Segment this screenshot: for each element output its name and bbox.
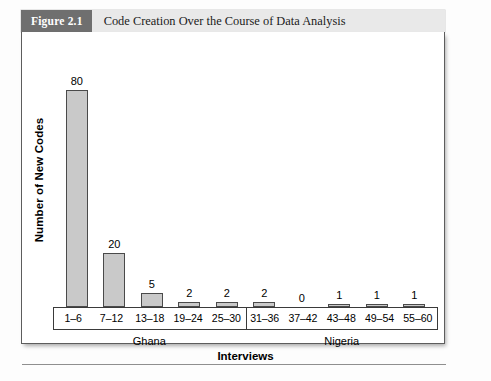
y-axis-label-text: Number of New Codes: [33, 118, 45, 243]
x-axis-category-label: 31–36: [245, 307, 283, 329]
bar-slot: 1: [358, 54, 396, 307]
x-axis-title: Interviews: [53, 350, 438, 362]
bar-value-label: 2: [171, 288, 209, 299]
category-label-box: 1–67–1213–1819–2425–3031–3637–4243–4849–…: [53, 307, 438, 330]
bar-value-label: 2: [246, 288, 284, 299]
x-axis-category-label: 19–24: [169, 307, 207, 329]
x-axis-category-label: 37–42: [284, 307, 322, 329]
bar-value-label: 0: [283, 293, 321, 304]
bar-slot: 2: [171, 54, 209, 307]
bar: [141, 293, 163, 307]
x-axis-category-label: 55–60: [399, 307, 437, 329]
bar-value-label: 80: [58, 76, 96, 87]
bar-value-label: 5: [133, 279, 171, 290]
figure-body: Number of New Codes 802052220111 1–67–12…: [21, 32, 445, 344]
bar: [66, 90, 88, 307]
bar-slot: 2: [208, 54, 246, 307]
bar: [103, 253, 125, 307]
bar-value-label: 1: [358, 290, 396, 301]
group-label-row: GhanaNigeria: [53, 334, 438, 348]
x-axis-category-label: 7–12: [92, 307, 130, 329]
bar-slot: 80: [58, 54, 96, 307]
figure-header: Figure 2.1 Code Creation Over the Course…: [21, 10, 445, 32]
bar-slot: 1: [321, 54, 359, 307]
bar-value-label: 1: [321, 290, 359, 301]
x-axis-category-label: 13–18: [131, 307, 169, 329]
figure-card: Figure 2.1 Code Creation Over the Course…: [21, 10, 445, 344]
bar-value-label: 1: [396, 290, 434, 301]
x-axis-category-label: 49–54: [360, 307, 398, 329]
bar-value-label: 2: [208, 288, 246, 299]
x-axis-group-label: Nigeria: [246, 334, 439, 348]
bar-slot: 5: [133, 54, 171, 307]
x-axis-category-label: 25–30: [207, 307, 245, 329]
x-axis-group-label: Ghana: [53, 334, 246, 348]
x-axis-category-label: 1–6: [54, 307, 92, 329]
x-axis-category-label: 43–48: [322, 307, 360, 329]
bar-slot: 1: [396, 54, 434, 307]
figure-number-badge: Figure 2.1: [21, 10, 92, 32]
figure-title: Code Creation Over the Course of Data An…: [92, 10, 346, 32]
bar-slot: 20: [96, 54, 134, 307]
bar-slot: 0: [283, 54, 321, 307]
bar-slot: 2: [246, 54, 284, 307]
page-rule: [22, 364, 446, 365]
y-axis-label: Number of New Codes: [31, 90, 47, 270]
page-background: Figure 2.1 Code Creation Over the Course…: [0, 0, 491, 381]
plot-area: 802052220111: [58, 54, 433, 307]
bar-value-label: 20: [96, 239, 134, 250]
bar-series: 802052220111: [58, 54, 433, 307]
